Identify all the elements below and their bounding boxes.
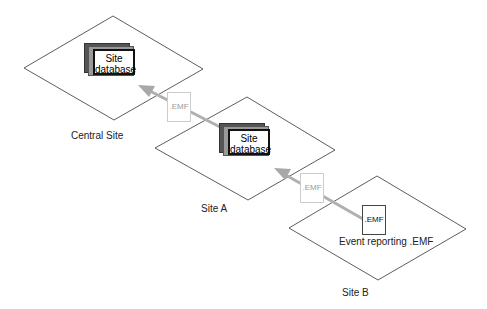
db-label-line2: database: [95, 64, 136, 75]
emf-file-icon: .EMF: [362, 205, 386, 235]
db-label-line1: Site: [105, 53, 122, 64]
db-label-line1: Site: [240, 133, 257, 144]
db-label-line2: database: [230, 144, 271, 155]
file-label: .EMF: [301, 183, 323, 192]
site-a-label: Site A: [201, 203, 227, 214]
emf-file-icon-faded: .EMF: [300, 173, 324, 203]
emf-file-icon-faded: .EMF: [167, 92, 191, 122]
central-site-database-icon: Sitedatabase: [84, 43, 130, 73]
central-site-label: Central Site: [71, 130, 123, 141]
site-b-label: Site B: [342, 287, 369, 298]
event-reporting-caption: Event reporting .EMF: [339, 236, 433, 247]
site-a-database-icon: Sitedatabase: [219, 123, 265, 153]
file-label: .EMF: [168, 102, 190, 111]
file-label: .EMF: [363, 215, 385, 224]
